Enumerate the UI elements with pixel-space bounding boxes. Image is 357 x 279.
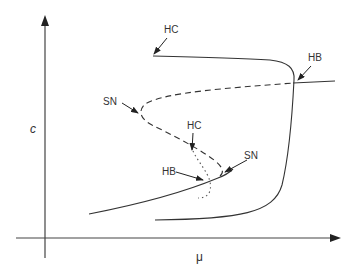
stable-lower-branch bbox=[89, 169, 233, 214]
arrow-icon bbox=[192, 133, 193, 150]
y-axis bbox=[41, 15, 49, 258]
y-axis-arrow-icon bbox=[41, 15, 49, 26]
annotation-sn-left: SN bbox=[103, 96, 138, 113]
x-axis-arrow-icon bbox=[330, 234, 341, 242]
upper-stable-branch bbox=[293, 81, 335, 83]
svg-text:HB: HB bbox=[162, 166, 176, 177]
periodic-orbit-branch bbox=[193, 151, 211, 198]
svg-text:HB: HB bbox=[308, 52, 322, 63]
svg-text:SN: SN bbox=[103, 96, 117, 107]
svg-text:HC: HC bbox=[164, 24, 178, 35]
isola-branch bbox=[153, 56, 294, 220]
annotation-hb-right: HB bbox=[298, 52, 322, 80]
unstable-middle-branch bbox=[141, 83, 293, 176]
y-axis-label: c bbox=[30, 122, 36, 136]
bifurcation-diagram: c μ HC HB SN HC HB SN bbox=[0, 0, 357, 279]
annotation-sn-right: SN bbox=[225, 150, 258, 172]
annotation-hc-mid: HC bbox=[187, 120, 201, 150]
svg-text:HC: HC bbox=[187, 120, 201, 131]
arrow-icon bbox=[298, 66, 311, 80]
arrow-icon bbox=[176, 172, 203, 180]
annotation-hc-top: HC bbox=[154, 24, 178, 54]
arrow-icon bbox=[154, 38, 167, 54]
annotation-hb-mid: HB bbox=[162, 166, 203, 180]
svg-text:SN: SN bbox=[244, 150, 258, 161]
arrow-icon bbox=[122, 103, 138, 113]
x-axis bbox=[16, 234, 341, 242]
arrow-icon bbox=[225, 160, 247, 172]
x-axis-label: μ bbox=[196, 250, 203, 264]
